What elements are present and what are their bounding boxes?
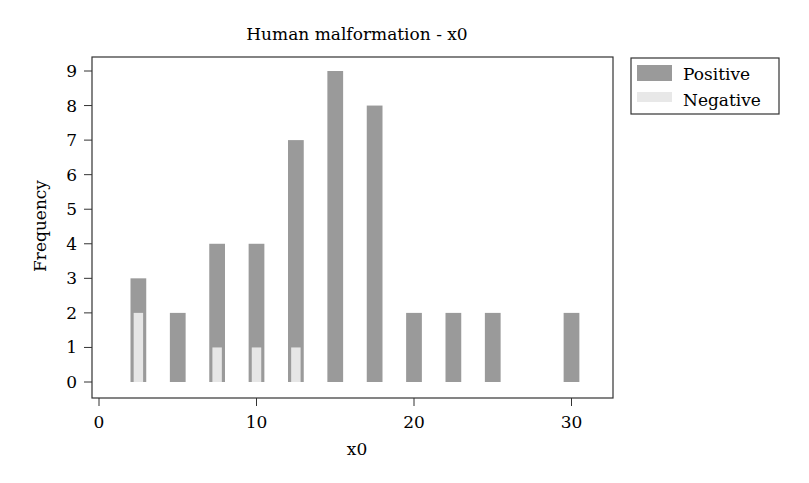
y-tick-label: 5 [66,199,77,219]
bar-positive [564,313,580,382]
bar-positive [446,313,462,382]
x-axis-label: x0 [347,439,367,459]
y-tick-label: 2 [66,303,77,323]
x-tick-label: 20 [403,412,425,432]
y-tick-label: 0 [66,372,77,392]
legend-label-positive: Positive [683,64,750,84]
y-tick-label: 6 [66,165,77,185]
y-tick-label: 4 [66,234,77,254]
bar-positive [170,313,186,382]
y-tick-label: 1 [66,337,77,357]
bar-positive [288,140,304,382]
x-tick-label: 10 [246,412,268,432]
x-tick-label: 0 [94,412,105,432]
legend-swatch-positive [637,65,672,81]
y-tick-label: 3 [66,268,77,288]
bar-positive [367,106,383,382]
bar-negative [291,347,300,382]
y-tick-label: 7 [66,130,77,150]
histogram-chart: Human malformation - x0 0123456789 01020… [0,0,809,483]
chart-title: Human malformation - x0 [246,24,467,44]
x-axis: 0102030 [94,398,583,432]
bar-positive [327,71,343,382]
bar-negative [252,347,261,382]
bar-negative [212,347,221,382]
y-axis: 0123456789 [66,61,92,392]
y-tick-label: 9 [66,61,77,81]
y-tick-label: 8 [66,96,77,116]
legend-label-negative: Negative [683,90,761,110]
plot-area [131,71,580,382]
legend-swatch-negative [637,92,672,102]
legend: Positive Negative [631,58,779,114]
x-tick-label: 30 [561,412,583,432]
y-axis-label: Frequency [30,180,50,272]
bar-positive [485,313,501,382]
bar-negative [134,313,143,382]
bar-positive [406,313,422,382]
